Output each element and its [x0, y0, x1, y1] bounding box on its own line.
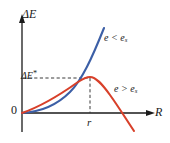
y-tick-label-text: ΔE — [21, 70, 33, 81]
curve-label-blue-subscript: s — [125, 36, 128, 43]
y-axis-label: ΔE — [22, 8, 36, 20]
curve-label-red: e > es — [114, 84, 137, 95]
energy-barrier-plot: ΔE R 0 ΔE* r e < es e > es — [0, 0, 170, 143]
curve-label-red-text: e > e — [114, 83, 135, 94]
y-tick-label-deltae-star: ΔE* — [21, 70, 37, 81]
origin-label: 0 — [11, 104, 17, 116]
curve-label-blue-text: e < e — [104, 32, 125, 43]
x-tick-label-r: r — [87, 117, 91, 128]
x-axis-label: R — [155, 106, 162, 118]
curve-label-red-subscript: s — [135, 87, 138, 94]
y-tick-label-superscript: * — [33, 69, 37, 78]
curve-label-blue: e < es — [104, 33, 127, 44]
